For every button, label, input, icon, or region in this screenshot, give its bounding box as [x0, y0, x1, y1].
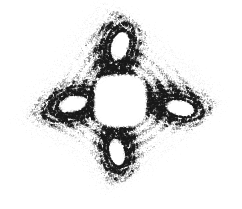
fractal-image-canvas: [0, 0, 242, 209]
fractal-figure: Stippled grayscale fractal: four-pointed…: [0, 0, 242, 209]
